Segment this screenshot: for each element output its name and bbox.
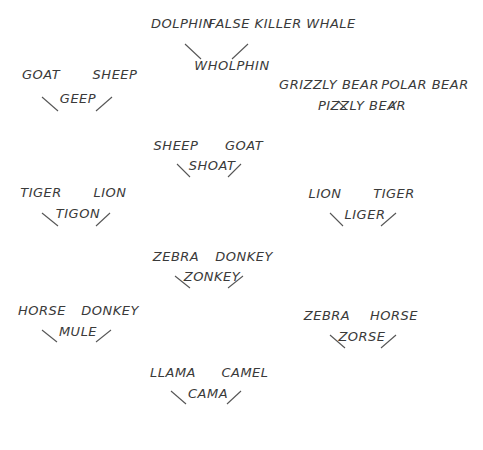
- parent-label: DONKEY: [81, 303, 139, 319]
- hybrid-label: ZONKEY: [184, 269, 241, 285]
- connector-line: [42, 330, 57, 342]
- hybrid-label: MULE: [59, 324, 97, 340]
- parent-label: CAMEL: [221, 365, 268, 381]
- parent-label: TIGER: [20, 185, 62, 201]
- hybrid-label: SHOAT: [189, 158, 236, 174]
- parent-label: LION: [93, 185, 126, 201]
- parent-label: HORSE: [370, 308, 418, 324]
- hybrid-label: ZORSE: [338, 329, 385, 345]
- parent-label: POLAR BEAR: [381, 77, 468, 93]
- connector-line: [96, 97, 112, 111]
- parent-label: DONKEY: [215, 249, 273, 265]
- connector-line: [42, 97, 58, 111]
- hybrid-label: LIGER: [345, 207, 386, 223]
- connector-line: [96, 330, 111, 342]
- hybrid-label: GEEP: [60, 91, 96, 107]
- parent-label: FALSE KILLER WHALE: [208, 16, 356, 32]
- parent-label: LLAMA: [150, 365, 196, 381]
- parent-label: TIGER: [373, 186, 415, 202]
- parent-label: SHEEP: [93, 67, 138, 83]
- parent-label: GRIZZLY BEAR: [279, 77, 379, 93]
- parent-label: ZEBRA: [153, 249, 199, 265]
- parent-label: GOAT: [22, 67, 60, 83]
- hybrid-label: CAMA: [188, 386, 228, 402]
- hybrid-label: TIGON: [56, 206, 100, 222]
- connector-line: [232, 44, 248, 59]
- connector-line: [330, 213, 343, 226]
- connector-line: [171, 391, 186, 404]
- parent-label: ZEBRA: [304, 308, 350, 324]
- parent-label: DOLPHIN: [151, 16, 213, 32]
- hybrid-label: PIZZLY BEAR: [318, 98, 406, 114]
- parent-label: GOAT: [225, 138, 263, 154]
- connector-line: [227, 391, 241, 404]
- hybrid-label: WHOLPHIN: [194, 58, 269, 74]
- parent-label: HORSE: [18, 303, 66, 319]
- parent-label: LION: [308, 186, 341, 202]
- connector-line: [185, 44, 201, 59]
- parent-label: SHEEP: [154, 138, 199, 154]
